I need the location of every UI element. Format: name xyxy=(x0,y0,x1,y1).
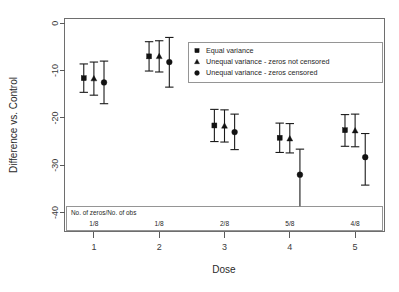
data-point-square xyxy=(147,54,152,59)
legend-marker-square xyxy=(195,49,199,53)
data-point-triangle xyxy=(156,53,162,58)
legend-label: Unequal variance - zeros censored xyxy=(206,68,317,77)
data-point-square xyxy=(277,135,282,140)
legend-label: Equal variance xyxy=(206,46,254,55)
data-point-circle xyxy=(166,59,172,65)
data-point-triangle xyxy=(287,136,293,141)
y-tick-label: -30 xyxy=(50,159,60,172)
scatter-plot-svg: 0-10-20-30-40 12345 Equal varianceUnequa… xyxy=(0,0,399,292)
annotation-value: 1/8 xyxy=(155,220,164,227)
data-point-circle xyxy=(101,80,107,86)
y-tick-label: -40 xyxy=(50,206,60,219)
y-tick-label: -20 xyxy=(50,111,60,124)
x-axis-ticks: 12345 xyxy=(91,232,357,252)
data-point-circle xyxy=(297,172,303,178)
y-axis-ticks: 0-10-20-30-40 xyxy=(50,21,65,219)
y-axis-title: Difference vs. Control xyxy=(8,77,19,173)
x-tick-label: 4 xyxy=(287,242,292,252)
data-point-triangle xyxy=(222,123,228,128)
x-tick-label: 3 xyxy=(222,242,227,252)
x-axis-title: Dose xyxy=(212,264,236,275)
y-tick-label: 0 xyxy=(50,21,60,26)
data-point-triangle xyxy=(91,75,97,80)
annotation-header: No. of zeros/No. of obs xyxy=(71,209,136,216)
data-point-triangle xyxy=(352,128,358,133)
data-point-circle xyxy=(362,154,368,160)
zeros-annotation-box: No. of zeros/No. of obs 1/81/82/85/84/8 xyxy=(67,207,383,231)
data-point-square xyxy=(81,76,86,81)
annotation-value: 4/8 xyxy=(351,220,360,227)
data-point-circle xyxy=(232,129,238,135)
legend-label: Unequal variance - zeros not censored xyxy=(206,57,329,66)
data-point-square xyxy=(212,123,217,128)
annotation-value: 1/8 xyxy=(89,220,98,227)
y-tick-label: -10 xyxy=(50,64,60,77)
annotation-value: 2/8 xyxy=(220,220,229,227)
x-tick-label: 1 xyxy=(91,242,96,252)
legend-marker-circle xyxy=(195,71,200,76)
x-tick-label: 2 xyxy=(157,242,162,252)
annotation-value: 5/8 xyxy=(285,220,294,227)
x-tick-label: 5 xyxy=(353,242,358,252)
chart-legend: Equal varianceUnequal variance - zeros n… xyxy=(189,43,383,83)
chart-figure: 0-10-20-30-40 12345 Equal varianceUnequa… xyxy=(0,0,399,292)
data-point-square xyxy=(342,128,347,133)
